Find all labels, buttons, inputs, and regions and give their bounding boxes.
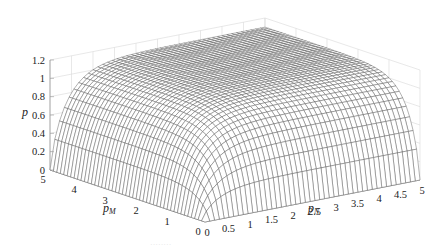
svg-text:1: 1: [247, 219, 252, 230]
svg-text:4: 4: [71, 184, 77, 195]
svg-text:3: 3: [333, 202, 338, 213]
svg-text:3.5: 3.5: [351, 198, 364, 209]
svg-text:0.6: 0.6: [32, 110, 45, 121]
svg-text:5: 5: [40, 174, 45, 185]
svg-text:1: 1: [164, 216, 169, 227]
svg-text:0: 0: [195, 226, 200, 237]
svg-text:0.8: 0.8: [32, 91, 45, 102]
svg-text:1.2: 1.2: [32, 55, 45, 66]
svg-text:0.2: 0.2: [32, 146, 45, 157]
mesh-surface: [50, 27, 420, 222]
svg-text:1.5: 1.5: [265, 214, 278, 225]
svg-text:2: 2: [290, 210, 295, 221]
svg-text:4: 4: [376, 193, 382, 204]
svg-text:4.5: 4.5: [394, 189, 407, 200]
svg-text:0.5: 0.5: [222, 223, 235, 234]
svg-text:5: 5: [419, 185, 424, 196]
x-axis-label: pN: [307, 201, 320, 216]
svg-text:0.4: 0.4: [32, 128, 46, 139]
z-axis-label: p: [21, 105, 28, 119]
figure-caption-faint: ········: [150, 240, 310, 250]
y-axis-label: pM: [102, 201, 117, 216]
svg-text:2: 2: [133, 205, 138, 216]
surface-plot: 00.20.40.60.811.201234500.511.522.533.54…: [0, 0, 441, 251]
svg-text:1: 1: [40, 73, 45, 84]
svg-text:0: 0: [204, 227, 209, 238]
